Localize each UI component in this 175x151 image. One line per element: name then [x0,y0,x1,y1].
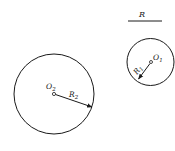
reference-label: R [138,10,145,19]
circle-o2: O2 R2 [14,54,94,134]
radius-label-r2: R2 [68,90,79,100]
center-label-o1: O1 [153,53,163,63]
radius-label-r1: R1 [131,63,145,77]
circle-o1: O1 R1 [127,39,174,86]
reference-length-r: R [128,10,162,21]
center-label-o2: O2 [46,82,56,92]
center-point-o2 [52,92,55,95]
geometry-diagram: R O2 R2 O1 R1 [0,0,175,151]
